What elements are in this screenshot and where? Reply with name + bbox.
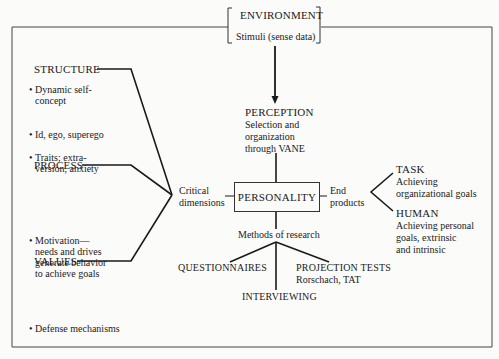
end-products-line-1: End	[330, 185, 346, 196]
diagram-canvas: ENVIRONMENT Stimuli (sense data) PERCEPT…	[0, 0, 499, 359]
structure-bullet-1: Dynamic self- concept	[29, 84, 499, 106]
structure-bullet-3: Traits; extra- version, anxiety	[29, 152, 499, 174]
task-title: TASK	[396, 164, 425, 176]
bullet-line: Dynamic self-	[35, 84, 499, 95]
interviewing-label: INTERVIEWING	[242, 291, 317, 302]
bullet-line: version, anxiety	[35, 163, 499, 174]
end-products-fork	[371, 173, 393, 211]
personality-box: PERSONALITY	[234, 182, 320, 212]
critical-dimensions-line-2: dimensions	[179, 197, 225, 208]
process-bullet-2: Defense mechanisms	[29, 323, 499, 334]
end-products-line-2: products	[330, 197, 364, 208]
values-title: VALUES	[34, 256, 77, 268]
human-line-2: goals, extrinsic	[396, 232, 457, 243]
structure-title: STRUCTURE	[34, 64, 100, 76]
human-title: HUMAN	[396, 208, 439, 220]
environment-subtitle: Stimuli (sense data)	[236, 31, 315, 42]
critical-dimensions-line-1: Critical	[179, 185, 209, 196]
questionnaires-label: QUESTIONNAIRES	[178, 262, 267, 273]
bullet-line: Traits; extra-	[35, 152, 499, 163]
bullet-line: Defense mechanisms	[35, 323, 499, 334]
environment-title: ENVIRONMENT	[240, 10, 323, 22]
human-line-1: Achieving personal	[396, 220, 474, 231]
bullet-line: Id, ego, superego	[35, 129, 499, 140]
task-line-2: organizational goals	[396, 188, 477, 199]
projection-tests-title: PROJECTION TESTS	[296, 262, 391, 273]
bullet-line: to achieve goals	[35, 268, 499, 279]
bullet-line: generate behavior	[35, 257, 499, 268]
personality-label: PERSONALITY	[238, 191, 316, 203]
structure-bullet-2: Id, ego, superego	[29, 129, 499, 140]
perception-title: PERCEPTION	[245, 107, 314, 119]
projection-tests-subtitle: Rorschach, TAT	[296, 274, 361, 285]
process-title: PROCESS	[34, 160, 83, 172]
task-line-1: Achieving	[396, 176, 438, 187]
bullet-line: concept	[35, 95, 499, 106]
human-line-3: and intrinsic	[396, 244, 446, 255]
